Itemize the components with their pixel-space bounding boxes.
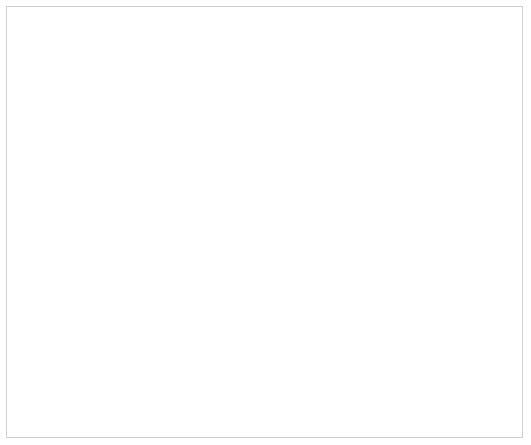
chart (0, 0, 531, 445)
